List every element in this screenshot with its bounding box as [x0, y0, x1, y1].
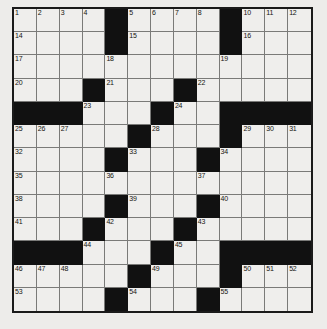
crossword-cell[interactable]: 36: [105, 172, 128, 195]
crossword-cell[interactable]: [60, 55, 83, 78]
crossword-cell[interactable]: [37, 79, 60, 102]
crossword-cell[interactable]: [60, 195, 83, 218]
crossword-cell[interactable]: 49: [151, 265, 174, 288]
crossword-cell[interactable]: 14: [14, 32, 37, 55]
crossword-cell[interactable]: [60, 218, 83, 241]
crossword-cell[interactable]: [151, 195, 174, 218]
crossword-cell[interactable]: 44: [83, 241, 106, 264]
crossword-cell[interactable]: 53: [14, 288, 37, 311]
crossword-cell[interactable]: [83, 195, 106, 218]
crossword-cell[interactable]: [128, 102, 151, 125]
crossword-cell[interactable]: [60, 32, 83, 55]
crossword-cell[interactable]: [128, 218, 151, 241]
crossword-cell[interactable]: 1: [14, 9, 37, 32]
crossword-cell[interactable]: [288, 148, 311, 171]
crossword-cell[interactable]: [197, 55, 220, 78]
crossword-cell[interactable]: [197, 241, 220, 264]
crossword-cell[interactable]: 30: [265, 125, 288, 148]
crossword-cell[interactable]: 21: [105, 79, 128, 102]
crossword-cell[interactable]: 22: [197, 79, 220, 102]
crossword-cell[interactable]: [242, 55, 265, 78]
crossword-cell[interactable]: [83, 32, 106, 55]
crossword-cell[interactable]: 52: [288, 265, 311, 288]
crossword-cell[interactable]: [151, 32, 174, 55]
crossword-cell[interactable]: [197, 32, 220, 55]
crossword-cell[interactable]: 34: [220, 148, 243, 171]
crossword-cell[interactable]: 6: [151, 9, 174, 32]
crossword-cell[interactable]: [242, 79, 265, 102]
crossword-cell[interactable]: [37, 288, 60, 311]
crossword-cell[interactable]: [151, 148, 174, 171]
crossword-cell[interactable]: 10: [242, 9, 265, 32]
crossword-cell[interactable]: [60, 172, 83, 195]
crossword-cell[interactable]: [60, 148, 83, 171]
crossword-cell[interactable]: 37: [197, 172, 220, 195]
crossword-cell[interactable]: 41: [14, 218, 37, 241]
crossword-cell[interactable]: 4: [83, 9, 106, 32]
crossword-cell[interactable]: 38: [14, 195, 37, 218]
crossword-cell[interactable]: 23: [83, 102, 106, 125]
crossword-cell[interactable]: 5: [128, 9, 151, 32]
crossword-cell[interactable]: [288, 218, 311, 241]
crossword-cell[interactable]: [37, 55, 60, 78]
crossword-cell[interactable]: 48: [60, 265, 83, 288]
crossword-cell[interactable]: [128, 79, 151, 102]
crossword-cell[interactable]: [60, 79, 83, 102]
crossword-cell[interactable]: [37, 148, 60, 171]
crossword-cell[interactable]: 15: [128, 32, 151, 55]
crossword-cell[interactable]: [242, 172, 265, 195]
crossword-cell[interactable]: [105, 265, 128, 288]
crossword-cell[interactable]: [265, 195, 288, 218]
crossword-cell[interactable]: 17: [14, 55, 37, 78]
crossword-cell[interactable]: 31: [288, 125, 311, 148]
crossword-cell[interactable]: [60, 288, 83, 311]
crossword-cell[interactable]: [83, 288, 106, 311]
crossword-cell[interactable]: [37, 32, 60, 55]
crossword-cell[interactable]: [265, 32, 288, 55]
crossword-cell[interactable]: [128, 172, 151, 195]
crossword-cell[interactable]: [83, 172, 106, 195]
crossword-cell[interactable]: 25: [14, 125, 37, 148]
crossword-cell[interactable]: 33: [128, 148, 151, 171]
crossword-cell[interactable]: [288, 55, 311, 78]
crossword-cell[interactable]: 42: [105, 218, 128, 241]
crossword-cell[interactable]: 11: [265, 9, 288, 32]
crossword-cell[interactable]: [174, 172, 197, 195]
crossword-cell[interactable]: [242, 148, 265, 171]
crossword-cell[interactable]: [83, 125, 106, 148]
crossword-cell[interactable]: 20: [14, 79, 37, 102]
crossword-cell[interactable]: [242, 195, 265, 218]
crossword-cell[interactable]: 19: [220, 55, 243, 78]
crossword-cell[interactable]: [288, 288, 311, 311]
crossword-cell[interactable]: [242, 218, 265, 241]
crossword-cell[interactable]: [197, 102, 220, 125]
crossword-cell[interactable]: [83, 55, 106, 78]
crossword-cell[interactable]: [265, 288, 288, 311]
crossword-cell[interactable]: 24: [174, 102, 197, 125]
crossword-cell[interactable]: [37, 195, 60, 218]
crossword-cell[interactable]: 26: [37, 125, 60, 148]
crossword-cell[interactable]: [288, 79, 311, 102]
crossword-cell[interactable]: [265, 79, 288, 102]
crossword-cell[interactable]: [151, 288, 174, 311]
crossword-cell[interactable]: 28: [151, 125, 174, 148]
crossword-cell[interactable]: [105, 102, 128, 125]
crossword-cell[interactable]: [151, 172, 174, 195]
crossword-cell[interactable]: [83, 265, 106, 288]
crossword-cell[interactable]: 16: [242, 32, 265, 55]
crossword-cell[interactable]: [220, 218, 243, 241]
crossword-cell[interactable]: [105, 241, 128, 264]
crossword-cell[interactable]: [128, 241, 151, 264]
crossword-cell[interactable]: [151, 79, 174, 102]
crossword-cell[interactable]: [288, 195, 311, 218]
crossword-cell[interactable]: [197, 265, 220, 288]
crossword-cell[interactable]: [83, 148, 106, 171]
crossword-cell[interactable]: [151, 218, 174, 241]
crossword-cell[interactable]: 18: [105, 55, 128, 78]
crossword-cell[interactable]: [37, 172, 60, 195]
crossword-cell[interactable]: 7: [174, 9, 197, 32]
crossword-cell[interactable]: [174, 288, 197, 311]
crossword-cell[interactable]: [128, 55, 151, 78]
crossword-cell[interactable]: 27: [60, 125, 83, 148]
crossword-cell[interactable]: [220, 172, 243, 195]
